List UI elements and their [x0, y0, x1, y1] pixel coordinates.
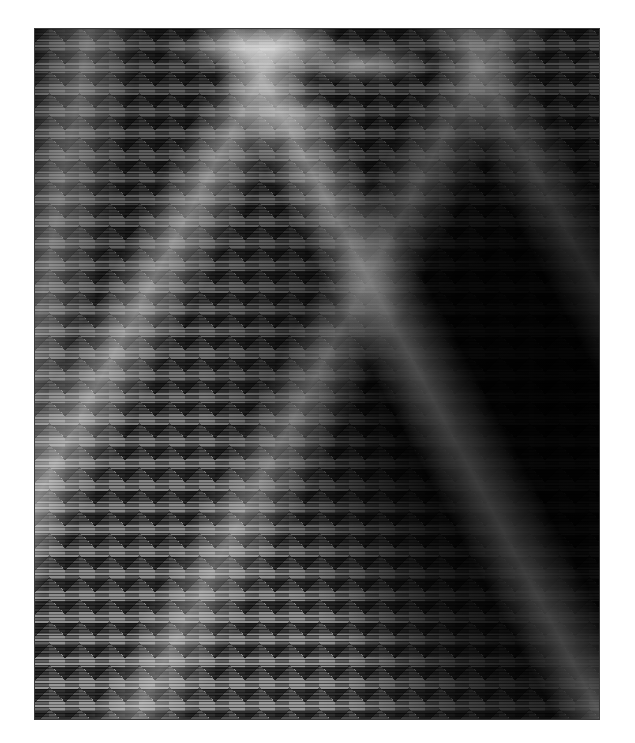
texture-image-frame	[34, 28, 600, 720]
right-darkening-layer	[35, 29, 599, 719]
